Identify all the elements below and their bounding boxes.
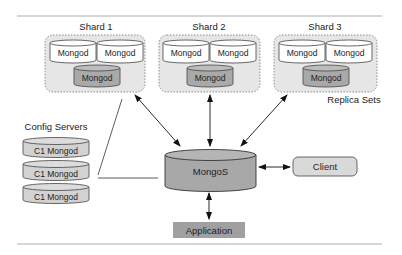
shard-3-label: Shard 3 — [308, 21, 341, 32]
shard-1-node-3-label: Mongod — [82, 73, 113, 83]
shard-2-secondary-1: Mongod — [163, 40, 209, 63]
config-to-shard-line — [98, 99, 122, 175]
config-servers-label: Config Servers — [25, 121, 88, 132]
shard-1-node-2-label: Mongod — [105, 48, 136, 58]
shard-3-primary: Mongod — [303, 65, 349, 87]
mongodb-sharded-cluster-diagram: Shard 1 Shard 2 Shard 3 Mongod Mongod Mo… — [0, 0, 402, 255]
arrow-shard3-mongos — [241, 95, 287, 146]
client-node: Client — [293, 157, 357, 176]
shard-2-group: Mongod Mongod Mongod — [159, 35, 260, 92]
application-label: Application — [186, 225, 232, 236]
config-server-1-label: C1 Mongod — [34, 146, 78, 156]
shard-1-secondary-1: Mongod — [50, 40, 96, 63]
shard-1-secondary-2: Mongod — [97, 40, 143, 63]
shard-2-label: Shard 2 — [192, 21, 225, 32]
config-server-3-label: C1 Mongod — [34, 192, 78, 202]
shard-3-secondary-2: Mongod — [326, 40, 372, 63]
shard-2-primary: Mongod — [187, 65, 233, 87]
mongos-router: MongoS — [165, 150, 256, 192]
config-server-3: C1 Mongod — [23, 184, 89, 204]
shard-1-label: Shard 1 — [79, 21, 112, 32]
mongos-label: MongoS — [193, 166, 228, 177]
shard-2-secondary-2: Mongod — [210, 40, 256, 63]
shard-3-node-3-label: Mongod — [311, 73, 342, 83]
shard-3-secondary-1: Mongod — [279, 40, 325, 63]
arrow-shard1-mongos — [135, 95, 180, 146]
shard-1-node-1-label: Mongod — [58, 48, 89, 58]
config-server-2: C1 Mongod — [23, 161, 89, 181]
shard-1-group: Mongod Mongod Mongod — [45, 35, 145, 92]
shard-3-group: Mongod Mongod Mongod — [274, 35, 377, 92]
shard-1-primary: Mongod — [74, 65, 120, 87]
shard-3-node-2-label: Mongod — [334, 48, 365, 58]
shard-3-node-1-label: Mongod — [287, 48, 318, 58]
replica-sets-label: Replica Sets — [327, 94, 381, 105]
shard-2-node-1-label: Mongod — [171, 48, 202, 58]
application-node: Application — [173, 222, 245, 238]
config-server-1: C1 Mongod — [23, 138, 89, 158]
client-label: Client — [313, 161, 338, 172]
config-server-2-label: C1 Mongod — [34, 169, 78, 179]
shard-2-node-3-label: Mongod — [195, 73, 226, 83]
shard-2-node-2-label: Mongod — [218, 48, 249, 58]
